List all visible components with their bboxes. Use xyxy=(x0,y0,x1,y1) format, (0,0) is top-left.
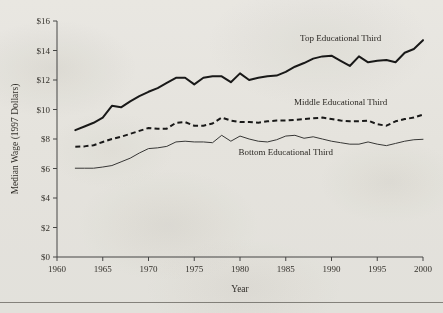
series-line-middle-educational-third xyxy=(75,115,423,147)
y-axis-tick-label: $2 xyxy=(41,223,50,233)
y-axis-tick-label: $12 xyxy=(37,75,51,85)
x-axis-tick-label: 1995 xyxy=(368,264,387,274)
x-axis-tick-label: 1970 xyxy=(140,264,159,274)
x-axis-tick-label: 1965 xyxy=(94,264,113,274)
x-axis-tick-label: 1975 xyxy=(185,264,204,274)
x-axis-tick-label: 1960 xyxy=(48,264,67,274)
x-axis-title: Year xyxy=(231,284,249,294)
series-label-middle-educational-third: Middle Educational Third xyxy=(294,97,388,107)
x-axis-tick-label: 1990 xyxy=(323,264,342,274)
y-axis-title: Median Wage (1997 Dollars) xyxy=(10,84,21,195)
y-axis-tick-label: $6 xyxy=(41,164,51,174)
y-axis-tick-label: $0 xyxy=(41,252,51,262)
x-axis-tick-label: 1980 xyxy=(231,264,250,274)
series-label-top-educational-third: Top Educational Third xyxy=(300,33,382,43)
y-axis-tick-label: $8 xyxy=(41,134,51,144)
y-axis-tick-label: $10 xyxy=(37,105,51,115)
y-axis-tick-label: $16 xyxy=(37,16,51,26)
chart-canvas: $0$2$4$6$8$10$12$14$16196019651970197519… xyxy=(0,0,443,313)
x-axis-tick-label: 2000 xyxy=(414,264,433,274)
x-axis-tick-label: 1985 xyxy=(277,264,296,274)
series-line-top-educational-third xyxy=(75,40,423,130)
page-footer-rule xyxy=(0,302,443,303)
series-label-bottom-educational-third: Bottom Educational Third xyxy=(239,147,334,157)
y-axis-tick-label: $14 xyxy=(37,46,51,56)
y-axis-tick-label: $4 xyxy=(41,193,51,203)
figure-chart-median-wage: $0$2$4$6$8$10$12$14$16196019651970197519… xyxy=(0,0,443,313)
